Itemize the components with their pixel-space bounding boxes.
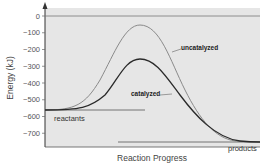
plot-area — [45, 8, 260, 147]
x-axis-title: Reaction Progress — [117, 153, 187, 163]
y-tick-label: −500 — [23, 95, 40, 104]
y-tick-label: −100 — [23, 28, 40, 37]
energy-diagram-chart: 0−100−200−300−400−500−600−700 uncatalyze… — [0, 0, 260, 164]
reactants-label: reactants — [54, 114, 85, 123]
uncatalyzed-label: uncatalyzed — [181, 44, 218, 52]
y-tick-label: −700 — [23, 129, 40, 138]
y-tick-label: −200 — [23, 45, 40, 54]
y-ticks: 0−100−200−300−400−500−600−700 — [23, 12, 45, 138]
y-tick-label: −300 — [23, 62, 40, 71]
y-tick-label: 0 — [36, 12, 40, 21]
y-tick-label: −600 — [23, 112, 40, 121]
y-tick-label: −400 — [23, 79, 40, 88]
products-label: products — [228, 144, 257, 153]
y-axis-arrow-icon — [43, 2, 48, 9]
y-axis-title: Energy (kJ) — [5, 56, 15, 100]
catalyzed-label: catalyzed — [131, 90, 160, 98]
